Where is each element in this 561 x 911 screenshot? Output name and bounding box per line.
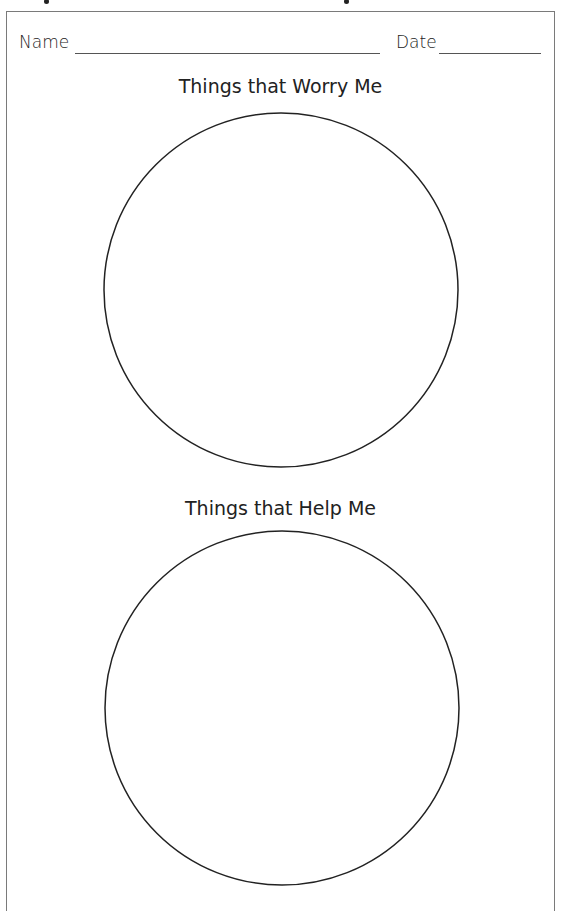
help-circle[interactable] xyxy=(105,531,459,885)
worry-circle[interactable] xyxy=(104,113,458,467)
